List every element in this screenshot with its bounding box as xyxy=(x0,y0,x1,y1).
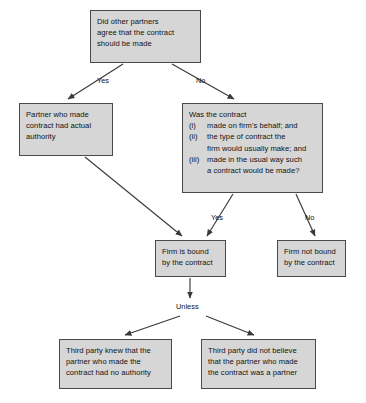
list-marker: (i) xyxy=(189,120,207,131)
node-line: Third party knew that the xyxy=(66,345,165,356)
node-list-item: (i)made on firm's behalf; and xyxy=(189,120,316,131)
edge-question-to-actual-authority xyxy=(68,64,123,99)
node-line: that the partner who made xyxy=(208,356,309,367)
list-text: the type of contract the xyxy=(207,132,285,141)
node-line: contract had actual xyxy=(26,120,106,131)
node-line: contract had no authority xyxy=(66,367,165,378)
edge-unless-to-third-party-not-believe xyxy=(206,316,254,335)
edge-unless-to-third-party-knew xyxy=(125,316,180,335)
node-list-item-continuation: firm would usually make; and xyxy=(189,143,316,154)
edge-actual-authority-to-firm-bound xyxy=(85,157,182,236)
list-marker: (iii) xyxy=(189,154,207,165)
list-text: firm would usually make; and xyxy=(189,143,306,154)
node-line: authority xyxy=(26,131,106,142)
node-third-party-knew-no-authority: Third party knew that the partner who ma… xyxy=(59,339,172,389)
node-list-item: (iii)made in the usual way such xyxy=(189,154,316,165)
node-firm-is-bound: Firm is bound by the contract xyxy=(155,240,226,277)
list-text: made on firm's behalf; and xyxy=(207,121,298,130)
node-line: by the contract xyxy=(162,257,219,268)
node-line: Partner who made xyxy=(26,109,106,120)
node-line: Firm is bound xyxy=(162,246,219,257)
node-heading: Was the contract xyxy=(189,109,316,120)
edge-label-yes-middle: Yes xyxy=(211,213,223,222)
node-line: the contract was a partner xyxy=(208,367,309,378)
node-line: by the contract xyxy=(284,257,339,268)
edge-label-yes-top: Yes xyxy=(97,76,109,85)
node-list-item: (ii)the type of contract the xyxy=(189,131,316,142)
list-text: made in the usual way such xyxy=(207,155,302,164)
node-list-item-continuation: a contract would be made? xyxy=(189,165,316,176)
list-marker: (ii) xyxy=(189,131,207,142)
edge-label-no-top: No xyxy=(196,76,205,85)
node-partner-had-actual-authority: Partner who made contract had actual aut… xyxy=(19,103,113,156)
node-line: partner who made the xyxy=(66,356,165,367)
edge-label-no-middle: No xyxy=(305,213,314,222)
node-third-party-did-not-believe-partner: Third party did not believe that the par… xyxy=(201,339,316,389)
list-text: a contract would be made? xyxy=(189,165,299,176)
node-question-partners-agree: Did other partners agree that the contra… xyxy=(90,10,201,63)
node-firm-not-bound: Firm not bound by the contract xyxy=(277,240,346,277)
node-line: Did other partners xyxy=(97,16,194,27)
flowchart-diagram: Did other partners agree that the contra… xyxy=(0,0,366,403)
node-was-the-contract-test: Was the contract (i)made on firm's behal… xyxy=(182,103,323,193)
node-line: Third party did not believe xyxy=(208,345,309,356)
node-line: agree that the contract xyxy=(97,27,194,38)
node-line: should be made xyxy=(97,38,194,49)
node-line: Firm not bound xyxy=(284,246,339,257)
edge-label-unless: Unless xyxy=(176,302,199,311)
